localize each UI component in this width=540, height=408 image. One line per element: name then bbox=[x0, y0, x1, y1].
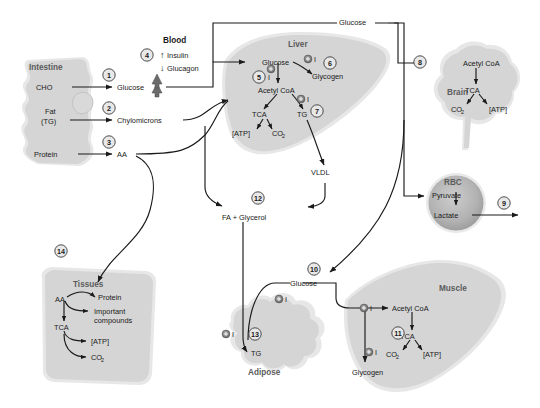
label-liver-tca: TCA bbox=[252, 110, 267, 119]
label-insulin: Insulin bbox=[167, 51, 188, 60]
insulin-letter-3: I bbox=[307, 95, 309, 104]
step-badge-7-label: 7 bbox=[315, 107, 319, 116]
step-badge-7[interactable]: 7 bbox=[311, 105, 323, 117]
step-badge-2-label: 2 bbox=[107, 104, 111, 113]
step-badge-8[interactable]: 8 bbox=[414, 56, 426, 68]
step-badge-9-label: 9 bbox=[502, 199, 506, 208]
label-tissues-compounds: compounds bbox=[94, 316, 133, 325]
diagram-canvas: Intestine CHO Fat (TG) Protein Glucose C… bbox=[0, 0, 540, 408]
label-liver-co2-sub: 2 bbox=[282, 133, 285, 139]
step-badge-10-label: 10 bbox=[310, 265, 318, 274]
label-tissues-important: Important bbox=[94, 307, 125, 316]
label-blood-glucose-top: Glucose bbox=[339, 18, 366, 27]
insulin-letter-2: I bbox=[268, 73, 270, 82]
step-badge-5[interactable]: 5 bbox=[253, 71, 265, 83]
label-fat: Fat bbox=[45, 107, 56, 116]
label-muscle-glycogen: Glycogen bbox=[352, 368, 383, 377]
step-badge-11-label: 11 bbox=[394, 329, 402, 338]
label-adipose-tg: TG bbox=[251, 349, 262, 358]
label-muscle-acetylcoa: Acetyl CoA bbox=[392, 304, 429, 313]
label-liver-glucose: Glucose bbox=[262, 58, 289, 67]
label-rbc-lactate: Lactate bbox=[434, 211, 458, 220]
glucagon-down-arrow: ↓ bbox=[160, 63, 165, 73]
label-tissues-aa: AA bbox=[55, 295, 65, 304]
step-badge-12[interactable]: 12 bbox=[252, 192, 264, 204]
organ-label-liver: Liver bbox=[288, 40, 308, 49]
label-fat-tg: (TG) bbox=[41, 117, 56, 126]
step-badge-13-label: 13 bbox=[251, 330, 259, 339]
organ-label-tissues: Tissues bbox=[73, 280, 104, 289]
label-brain-atp: [ATP] bbox=[489, 105, 507, 114]
step-badge-6[interactable]: 6 bbox=[324, 57, 336, 69]
insulin-letter-5: I bbox=[232, 330, 234, 339]
insulin-letter-1: I bbox=[314, 55, 316, 64]
step-badge-11[interactable]: 11 bbox=[392, 327, 404, 339]
metabolism-diagram: Intestine CHO Fat (TG) Protein Glucose C… bbox=[0, 0, 540, 408]
label-peripheral-glucose: Glucose bbox=[290, 279, 317, 288]
label-cho: CHO bbox=[36, 83, 53, 92]
step-badge-14-label: 14 bbox=[57, 247, 65, 256]
step-badge-5-label: 5 bbox=[257, 73, 261, 82]
label-muscle-atp: [ATP] bbox=[423, 350, 441, 359]
insulin-letter-7: I bbox=[375, 348, 377, 357]
step-badge-14[interactable]: 14 bbox=[55, 245, 67, 257]
label-glucagon: Glucagon bbox=[167, 64, 199, 73]
step-badge-8-label: 8 bbox=[418, 58, 422, 67]
label-liver-atp: [ATP] bbox=[232, 129, 250, 138]
organ-label-intestine: Intestine bbox=[29, 63, 63, 72]
label-liver-glycogen: Glycogen bbox=[312, 72, 343, 81]
label-liver-acetylcoa: Acetyl CoA bbox=[258, 86, 295, 95]
insulin-up-arrow: ↑ bbox=[160, 50, 165, 60]
label-vldl: VLDL bbox=[311, 168, 330, 177]
step-badge-13[interactable]: 13 bbox=[249, 328, 261, 340]
step-badge-4[interactable]: 4 bbox=[141, 49, 153, 61]
label-blood: Blood bbox=[163, 36, 186, 45]
step-badge-12-label: 12 bbox=[254, 194, 262, 203]
step-badge-10[interactable]: 10 bbox=[308, 263, 320, 275]
label-aa-blood: AA bbox=[117, 150, 127, 159]
label-muscle-co2-sub: 2 bbox=[396, 354, 399, 360]
insulin-letter-6: I bbox=[370, 304, 372, 313]
step-badge-1-label: 1 bbox=[107, 71, 111, 80]
label-chylomicrons: Chylomicrons bbox=[117, 116, 162, 125]
step-badge-9[interactable]: 9 bbox=[498, 197, 510, 209]
label-tissues-tca: TCA bbox=[54, 323, 69, 332]
step-badge-6-label: 6 bbox=[328, 59, 332, 68]
label-brain-tca: TCA bbox=[465, 86, 480, 95]
step-badge-3-label: 3 bbox=[107, 138, 111, 147]
insulin-letter-4: I bbox=[285, 295, 287, 304]
label-brain-acetylcoa: Acetyl CoA bbox=[463, 59, 500, 68]
organ-label-muscle: Muscle bbox=[439, 284, 467, 293]
step-badge-4-label: 4 bbox=[145, 51, 149, 60]
organ-label-rbc: RBC bbox=[444, 178, 462, 187]
step-badge-2[interactable]: 2 bbox=[103, 102, 115, 114]
label-rbc-pyruvate: Pyruvate bbox=[432, 191, 461, 200]
label-fa-glycerol: FA + Glycerol bbox=[222, 213, 267, 222]
label-tissues-atp: [ATP] bbox=[91, 337, 109, 346]
organ-label-adipose: Adipose bbox=[248, 368, 281, 377]
label-intestine-glucose: Glucose bbox=[117, 83, 144, 92]
label-liver-tg: TG bbox=[297, 110, 308, 119]
label-brain-co2-sub: 2 bbox=[461, 109, 464, 115]
label-tissues-co2-sub: 2 bbox=[101, 357, 104, 363]
step-badge-3[interactable]: 3 bbox=[103, 136, 115, 148]
step-badge-1[interactable]: 1 bbox=[103, 69, 115, 81]
label-tissues-protein: Protein bbox=[98, 293, 121, 302]
label-protein: Protein bbox=[34, 150, 57, 159]
